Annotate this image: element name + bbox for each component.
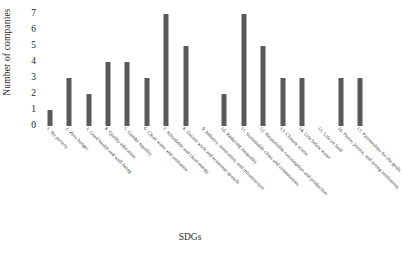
bar-slot [254, 14, 273, 126]
bar[interactable] [164, 14, 169, 126]
bar[interactable] [105, 62, 110, 126]
bar-slot [312, 14, 331, 126]
bar[interactable] [86, 94, 91, 126]
bar-slot [98, 14, 117, 126]
y-tick-label: 1 [31, 105, 36, 115]
y-tick-label: 5 [31, 41, 36, 51]
bar[interactable] [280, 78, 285, 126]
bar-slot [331, 14, 350, 126]
y-tick-label: 2 [31, 89, 36, 99]
bar[interactable] [47, 110, 52, 126]
y-tick-label: 0 [31, 121, 36, 131]
bar[interactable] [67, 78, 72, 126]
bar-slot [137, 14, 156, 126]
bar-slot [59, 14, 78, 126]
bar[interactable] [300, 78, 305, 126]
bar[interactable] [144, 78, 149, 126]
y-tick-label: 7 [31, 9, 36, 19]
bar-slot [176, 14, 195, 126]
plot-area [40, 14, 370, 126]
bar[interactable] [125, 62, 130, 126]
y-axis-title: Number of companies [2, 0, 16, 112]
bar-slot [79, 14, 98, 126]
bar[interactable] [338, 78, 343, 126]
y-tick-label: 4 [31, 57, 36, 67]
bar[interactable] [241, 14, 246, 126]
bar-slot [273, 14, 292, 126]
y-tick-label: 3 [31, 73, 36, 83]
bar-slot [292, 14, 311, 126]
bar-slot [215, 14, 234, 126]
bar[interactable] [222, 94, 227, 126]
y-axis-tick-labels: 01234567 [22, 14, 36, 126]
bar-slot [118, 14, 137, 126]
x-axis-tick-labels: 1. No poverty2. Zero hunger3. Good healt… [40, 126, 370, 226]
bar[interactable] [358, 78, 363, 126]
bar-slot [195, 14, 214, 126]
bar-slot [40, 14, 59, 126]
x-axis-title: SDGs [0, 232, 380, 242]
bar-slot [234, 14, 253, 126]
bar-slot [156, 14, 175, 126]
bar-slot [351, 14, 370, 126]
y-tick-label: 6 [31, 25, 36, 35]
bar[interactable] [183, 46, 188, 126]
bar[interactable] [261, 46, 266, 126]
